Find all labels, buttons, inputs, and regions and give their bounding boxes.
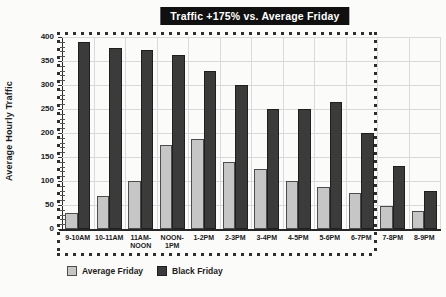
y-axis-title: Average Hourly Traffic xyxy=(4,61,14,201)
bar-black-friday xyxy=(204,71,217,229)
y-tick-label: 200 xyxy=(28,128,54,138)
y-tick-label: 0 xyxy=(28,224,54,234)
v-gridline xyxy=(188,37,189,229)
x-category-label-line: 1PM xyxy=(154,242,192,250)
x-axis-line xyxy=(59,229,441,231)
y-tick-label: 400 xyxy=(28,32,54,42)
v-gridline xyxy=(157,37,158,229)
bar-average-friday xyxy=(317,187,330,229)
bar-black-friday xyxy=(361,133,374,229)
x-category-label: 8-9PM xyxy=(406,234,444,242)
y-tick-label: 100 xyxy=(28,176,54,186)
v-gridline xyxy=(377,37,378,229)
bar-average-friday xyxy=(349,193,362,229)
v-gridline xyxy=(283,37,284,229)
bar-black-friday xyxy=(109,48,122,229)
bar-black-friday xyxy=(298,109,311,229)
bar-black-friday xyxy=(235,85,248,229)
y-tick-label: 150 xyxy=(28,152,54,162)
bar-average-friday xyxy=(286,181,299,229)
highlight-box-top-edge xyxy=(57,32,377,35)
v-gridline xyxy=(94,37,95,229)
v-gridline xyxy=(409,37,410,229)
legend-item: Black Friday xyxy=(157,266,223,276)
legend-label: Average Friday xyxy=(82,266,143,276)
bar-average-friday xyxy=(223,162,236,229)
legend: Average FridayBlack Friday xyxy=(67,266,223,276)
legend-swatch-average-friday xyxy=(67,266,77,276)
chart-title-badge: Traffic +175% vs. Average Friday xyxy=(160,7,349,25)
y-tick-label: 50 xyxy=(28,200,54,210)
x-category-label-line: 8-9PM xyxy=(406,234,444,242)
chart-title: Traffic +175% vs. Average Friday xyxy=(170,10,339,22)
bar-chart: Traffic +175% vs. Average Friday Average… xyxy=(0,0,446,297)
v-gridline xyxy=(220,37,221,229)
plot-area xyxy=(62,37,440,229)
v-gridline xyxy=(346,37,347,229)
bar-average-friday xyxy=(65,213,78,229)
v-gridline xyxy=(440,37,441,229)
bar-black-friday xyxy=(172,55,185,229)
bar-black-friday xyxy=(267,109,280,229)
bar-black-friday xyxy=(393,166,406,229)
bar-average-friday xyxy=(128,181,141,229)
y-tick-label: 300 xyxy=(28,80,54,90)
legend-item: Average Friday xyxy=(67,266,143,276)
bar-black-friday xyxy=(424,191,437,229)
bar-average-friday xyxy=(380,206,393,229)
highlight-box-bottom-edge xyxy=(57,253,377,256)
v-gridline xyxy=(125,37,126,229)
bar-average-friday xyxy=(254,169,267,229)
y-tick-label: 250 xyxy=(28,104,54,114)
legend-swatch-black-friday xyxy=(157,266,167,276)
bar-black-friday xyxy=(78,42,91,229)
bar-average-friday xyxy=(160,145,173,229)
v-gridline xyxy=(251,37,252,229)
bar-average-friday xyxy=(97,196,110,229)
bar-black-friday xyxy=(330,102,343,229)
bar-black-friday xyxy=(141,50,154,229)
legend-label: Black Friday xyxy=(172,266,223,276)
bar-average-friday xyxy=(412,211,425,229)
bar-average-friday xyxy=(191,139,204,229)
y-tick-label: 350 xyxy=(28,56,54,66)
v-gridline xyxy=(314,37,315,229)
